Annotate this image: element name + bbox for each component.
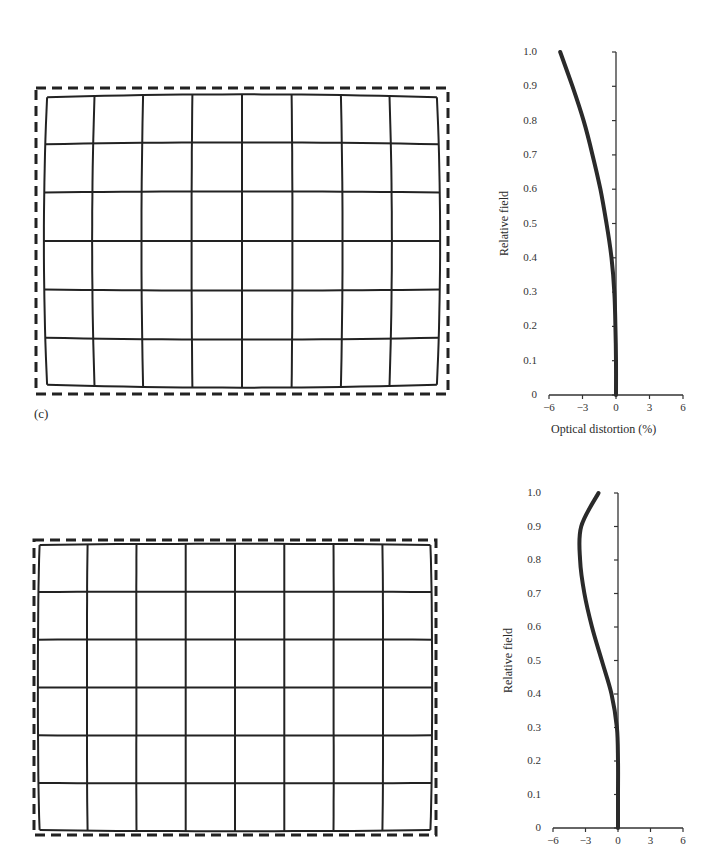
y-tick-label: 0.7 — [511, 587, 541, 599]
y-tick-label: 0.1 — [511, 788, 541, 800]
x-tick-label: 0 — [606, 401, 626, 413]
y-tick-label: 0.6 — [511, 620, 541, 632]
x-tick-label: 3 — [640, 401, 660, 413]
y-tick-label: 0.9 — [507, 79, 537, 91]
panel-label-c: (c) — [34, 406, 48, 422]
distortion-curve — [579, 493, 618, 828]
y-tick-label: 0.8 — [511, 553, 541, 565]
x-tick-label: −6 — [543, 834, 563, 846]
x-tick-label: 3 — [641, 834, 661, 846]
y-tick-label: 0 — [511, 821, 541, 833]
grid-line-horizontal — [44, 290, 440, 291]
y-tick-label: 0.4 — [511, 687, 541, 699]
y-tick-label: 0.4 — [507, 251, 537, 263]
x-tick-label: 6 — [673, 401, 693, 413]
grid-line-horizontal — [44, 191, 440, 192]
y-tick-label: 0.8 — [507, 114, 537, 126]
y-tick-label: 0.9 — [511, 520, 541, 532]
y-tick-label: 0.5 — [507, 217, 537, 229]
y-tick-label: 0 — [507, 388, 537, 400]
y-tick-label: 0.3 — [511, 721, 541, 733]
distortion-plot-top — [549, 52, 683, 399]
y-tick-label: 1.0 — [511, 486, 541, 498]
y-tick-label: 0.7 — [507, 148, 537, 160]
distortion-plot-bottom — [553, 493, 683, 832]
x-tick-label: −3 — [573, 401, 593, 413]
y-tick-label: 0.6 — [507, 182, 537, 194]
y-tick-label: 0.2 — [507, 319, 537, 331]
y-tick-label: 0.2 — [511, 754, 541, 766]
y-tick-label: 0.5 — [511, 654, 541, 666]
y-axis-label: Relative field — [501, 615, 516, 705]
x-tick-label: 0 — [608, 834, 628, 846]
distortion-curve — [560, 52, 616, 395]
x-tick-label: −3 — [576, 834, 596, 846]
x-tick-label: 6 — [673, 834, 693, 846]
x-tick-label: −6 — [539, 401, 559, 413]
x-axis-label: Optical distortion (%) — [551, 422, 656, 437]
y-tick-label: 0.3 — [507, 285, 537, 297]
y-tick-label: 0.1 — [507, 354, 537, 366]
y-axis-label: Relative field — [497, 178, 512, 268]
y-tick-label: 1.0 — [507, 45, 537, 57]
